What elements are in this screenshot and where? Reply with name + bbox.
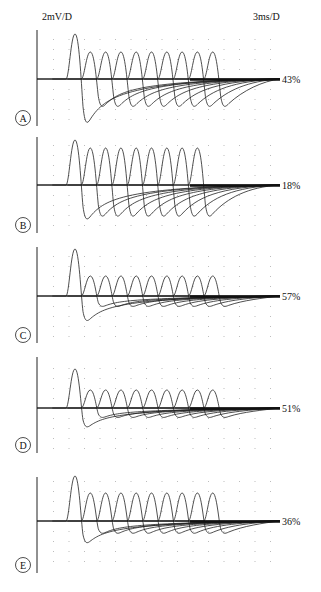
cmap-traces [37,476,280,543]
horizontal-scale-label: 3ms/D [253,11,280,22]
panel-letter: C [20,330,27,341]
rns-figure: 43%A18%B57%C51%D36%E 2mV/D 3ms/D [0,0,321,592]
panel-a: 43%A [16,30,301,126]
panel-letter: A [19,113,27,124]
panel-letter: E [20,560,26,571]
panel-d: 51%D [16,357,301,453]
vertical-scale-label: 2mV/D [42,11,72,22]
panel-letter: B [20,220,27,231]
panel-e: 36%E [16,476,301,573]
decrement-label: 36% [282,516,300,527]
cmap-traces [37,34,280,122]
panel-c: 57%C [16,247,301,343]
cmap-traces [37,140,280,219]
cmap-traces [37,369,280,427]
panel-letter: D [19,440,26,451]
cmap-traces [37,249,280,320]
decrement-label: 43% [282,74,300,85]
panels-group: 43%A18%B57%C51%D36%E [16,30,301,573]
decrement-label: 51% [282,403,300,414]
panel-b: 18%B [16,137,301,233]
decrement-label: 18% [282,180,300,191]
decrement-label: 57% [282,291,300,302]
